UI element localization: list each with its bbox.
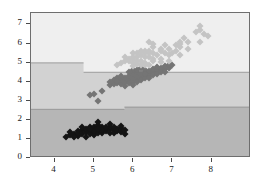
y-tick-mark — [26, 81, 30, 82]
plot-area — [30, 12, 250, 157]
x-tick-mark — [93, 158, 94, 162]
x-tick-label: 8 — [204, 165, 218, 174]
y-tick-label: 7 — [8, 18, 22, 27]
y-tick-label: 3 — [8, 95, 22, 104]
y-tick-label: 5 — [8, 57, 22, 66]
y-tick-mark — [26, 43, 30, 44]
y-tick-mark — [26, 157, 30, 158]
y-tick-mark — [26, 119, 30, 120]
x-tick-mark — [171, 158, 172, 162]
x-tick-label: 6 — [125, 165, 139, 174]
x-tick-mark — [54, 158, 55, 162]
x-tick-label: 7 — [164, 165, 178, 174]
y-tick-label: 2 — [8, 114, 22, 123]
y-tick-label: 4 — [8, 76, 22, 85]
x-tick-label: 5 — [86, 165, 100, 174]
y-tick-label: 0 — [8, 152, 22, 161]
chart-figure: 01234567 45678 — [0, 0, 269, 186]
y-tick-mark — [26, 23, 30, 24]
y-tick-mark — [26, 62, 30, 63]
y-tick-mark — [26, 138, 30, 139]
y-tick-mark — [26, 100, 30, 101]
x-tick-label: 4 — [47, 165, 61, 174]
x-tick-mark — [132, 158, 133, 162]
region-class-1 — [31, 107, 249, 156]
y-tick-label: 1 — [8, 133, 22, 142]
y-tick-label: 6 — [8, 38, 22, 47]
x-tick-mark — [211, 158, 212, 162]
